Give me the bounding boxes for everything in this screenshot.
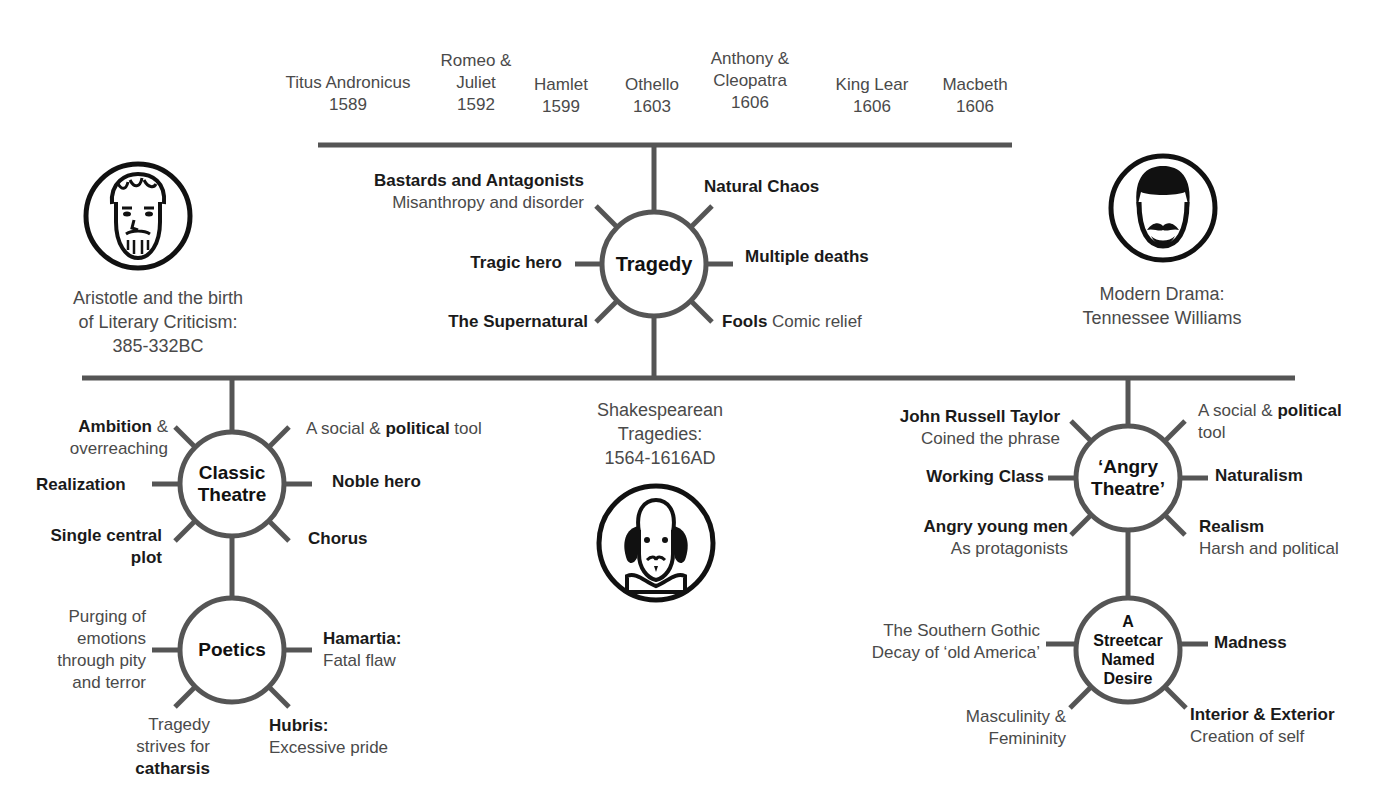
spoke-text: A social & bbox=[1198, 401, 1277, 420]
spoke-title: plot bbox=[30, 547, 162, 569]
spoke-title: Angry young men bbox=[880, 516, 1068, 538]
spoke-bastards: Bastards and Antagonists Misanthropy and… bbox=[330, 170, 584, 214]
caption-line: Shakespearean bbox=[560, 398, 760, 422]
tennessee-williams-portrait-icon bbox=[1107, 152, 1219, 264]
classic-theatre-hub: Classic Theatre bbox=[180, 432, 284, 536]
spoke-southern-gothic: The Southern Gothic Decay of ‘old Americ… bbox=[840, 620, 1040, 664]
hub-label: Theatre bbox=[198, 484, 267, 506]
spoke-subtitle: Coined the phrase bbox=[880, 428, 1060, 450]
hub-label: Streetcar bbox=[1093, 631, 1162, 650]
hub-label: Desire bbox=[1093, 669, 1162, 688]
hub-label: Named bbox=[1093, 650, 1162, 669]
spoke-interior-exterior: Interior & Exterior Creation of self bbox=[1190, 704, 1335, 748]
spoke-title: Ambition bbox=[78, 417, 152, 436]
spoke-social-political: A social & political tool bbox=[1198, 400, 1342, 444]
play-title: Othello bbox=[612, 74, 692, 96]
spoke-ambition: Ambition & overreaching bbox=[40, 416, 168, 460]
play-title: Juliet bbox=[426, 72, 526, 94]
timeline-play-othello: Othello 1603 bbox=[612, 74, 692, 118]
spoke-subtitle: Harsh and political bbox=[1199, 538, 1339, 560]
spoke-text: A social & bbox=[306, 419, 385, 438]
caption-line: Tragedies: bbox=[560, 422, 760, 446]
hub-label: A bbox=[1093, 612, 1162, 631]
spoke-text: strives for bbox=[100, 736, 210, 758]
angry-theatre-hub: ‘Angry Theatre’ bbox=[1076, 426, 1180, 530]
timeline-play-titus: Titus Andronicus 1589 bbox=[272, 72, 424, 116]
spoke-subtitle: Creation of self bbox=[1190, 726, 1335, 748]
play-year: 1599 bbox=[526, 96, 596, 118]
play-year: 1606 bbox=[930, 96, 1020, 118]
spoke-fools: Fools Comic relief bbox=[722, 311, 862, 333]
spoke-bold: political bbox=[385, 419, 449, 438]
spoke-chorus: Chorus bbox=[308, 528, 368, 550]
spoke-madness: Madness bbox=[1214, 632, 1287, 654]
spoke-text: Decay of ‘old America’ bbox=[840, 642, 1040, 664]
spoke-bold: catharsis bbox=[100, 758, 210, 780]
spoke-tragic-hero: Tragic hero bbox=[430, 252, 562, 274]
timeline-play-lear: King Lear 1606 bbox=[822, 74, 922, 118]
spoke-text: tool bbox=[1198, 422, 1342, 444]
timeline-play-hamlet: Hamlet 1599 bbox=[526, 74, 596, 118]
play-title: King Lear bbox=[822, 74, 922, 96]
spoke-john-russell-taylor: John Russell Taylor Coined the phrase bbox=[880, 406, 1060, 450]
spoke-hamartia: Hamartia: Fatal flaw bbox=[323, 628, 401, 672]
timeline-play-macbeth: Macbeth 1606 bbox=[930, 74, 1020, 118]
spoke-text: through pity bbox=[30, 650, 146, 672]
spoke-text: and terror bbox=[30, 672, 146, 694]
play-title: Anthony & bbox=[695, 48, 805, 70]
spoke-purging: Purging of emotions through pity and ter… bbox=[30, 606, 146, 694]
spoke-title: Hubris: bbox=[269, 715, 388, 737]
spoke-text: Tragedy bbox=[100, 714, 210, 736]
spoke-title: Bastards and Antagonists bbox=[330, 170, 584, 192]
streetcar-hub: A Streetcar Named Desire bbox=[1076, 598, 1180, 702]
hub-label: ‘Angry bbox=[1091, 456, 1165, 478]
spoke-text: & bbox=[152, 417, 168, 436]
spoke-text: tool bbox=[450, 419, 482, 438]
play-title: Hamlet bbox=[526, 74, 596, 96]
play-year: 1606 bbox=[822, 96, 922, 118]
spoke-single-central-plot: Single central plot bbox=[30, 525, 162, 569]
shakespeare-caption: Shakespearean Tragedies: 1564-1616AD bbox=[560, 398, 760, 470]
timeline-play-anthony: Anthony & Cleopatra 1606 bbox=[695, 48, 805, 114]
spoke-bold: political bbox=[1277, 401, 1341, 420]
spoke-multiple-deaths: Multiple deaths bbox=[745, 246, 869, 268]
spoke-working-class: Working Class bbox=[890, 466, 1044, 488]
spoke-hubris: Hubris: Excessive pride bbox=[269, 715, 388, 759]
spoke-subtitle: Comic relief bbox=[772, 312, 862, 331]
spoke-subtitle: Misanthropy and disorder bbox=[330, 192, 584, 214]
spoke-text: emotions bbox=[30, 628, 146, 650]
hub-label: Classic bbox=[198, 462, 267, 484]
play-year: 1606 bbox=[695, 92, 805, 114]
spoke-realism: Realism Harsh and political bbox=[1199, 516, 1339, 560]
play-title: Cleopatra bbox=[695, 70, 805, 92]
spoke-text: The Southern Gothic bbox=[840, 620, 1040, 642]
tragedy-hub: Tragedy bbox=[602, 212, 706, 316]
spoke-angry-young-men: Angry young men As protagonists bbox=[880, 516, 1068, 560]
spoke-title: Hamartia: bbox=[323, 628, 401, 650]
hub-label: Theatre’ bbox=[1091, 478, 1165, 500]
caption-line: Aristotle and the birth bbox=[36, 286, 280, 310]
timeline-play-romeo: Romeo & Juliet 1592 bbox=[426, 50, 526, 116]
spoke-title: Realism bbox=[1199, 516, 1339, 538]
play-year: 1589 bbox=[272, 94, 424, 116]
hub-label: Poetics bbox=[198, 639, 266, 661]
spoke-social-political: A social & political tool bbox=[306, 418, 482, 440]
spoke-masculinity-femininity: Masculinity & Femininity bbox=[920, 706, 1066, 750]
caption-line: Modern Drama: bbox=[1072, 282, 1252, 306]
play-title: Macbeth bbox=[930, 74, 1020, 96]
spoke-subtitle: overreaching bbox=[40, 438, 168, 460]
hub-label: Tragedy bbox=[616, 253, 693, 275]
spoke-catharsis: Tragedy strives for catharsis bbox=[100, 714, 210, 780]
spoke-subtitle: Excessive pride bbox=[269, 737, 388, 759]
spoke-natural-chaos: Natural Chaos bbox=[704, 176, 819, 198]
caption-line: 1564-1616AD bbox=[560, 446, 760, 470]
spoke-text: Purging of bbox=[30, 606, 146, 628]
caption-line: Tennessee Williams bbox=[1072, 306, 1252, 330]
play-year: 1603 bbox=[612, 96, 692, 118]
modern-drama-caption: Modern Drama: Tennessee Williams bbox=[1072, 282, 1252, 330]
spoke-naturalism: Naturalism bbox=[1215, 465, 1303, 487]
spoke-text: Masculinity & bbox=[920, 706, 1066, 728]
spoke-noble-hero: Noble hero bbox=[332, 471, 421, 493]
spoke-text: Femininity bbox=[920, 728, 1066, 750]
spoke-title: Single central bbox=[30, 525, 162, 547]
